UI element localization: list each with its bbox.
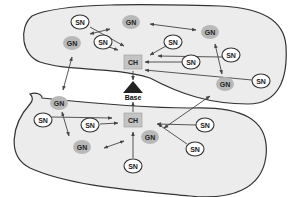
gn-node: GN bbox=[216, 77, 234, 91]
node-label: SN bbox=[190, 146, 200, 153]
node-label: GN bbox=[126, 19, 137, 26]
node-label: SN bbox=[38, 117, 48, 124]
base-station-icon bbox=[123, 81, 143, 93]
sn-node: SN bbox=[222, 48, 240, 62]
gn-node: GN bbox=[201, 25, 219, 39]
node-label: SN bbox=[186, 59, 196, 66]
gn-node: GN bbox=[63, 36, 81, 50]
node-label: SN bbox=[200, 122, 210, 129]
node-label: CH bbox=[128, 117, 138, 124]
sn-node: SN bbox=[196, 118, 214, 132]
node-label: SN bbox=[98, 39, 108, 46]
gn-node: GN bbox=[122, 15, 140, 29]
node-label: SN bbox=[128, 163, 138, 170]
node-label: GN bbox=[67, 40, 78, 47]
sn-node: SN bbox=[164, 35, 182, 49]
gn-node: GN bbox=[73, 140, 91, 154]
sn-node: SN bbox=[182, 55, 200, 69]
node-label: SN bbox=[168, 39, 178, 46]
ch-node: CH bbox=[124, 55, 142, 69]
wsn-cluster-diagram: Base SNGNGNSNGNSNSNCHSNGNSNGNSNSNCHSNGNG… bbox=[0, 0, 294, 197]
node-label: GN bbox=[145, 134, 156, 141]
node-label: SN bbox=[85, 122, 95, 129]
node-label: GN bbox=[77, 144, 88, 151]
base-station: Base bbox=[123, 81, 143, 101]
bottom-cluster-region bbox=[14, 93, 266, 197]
ch-node: CH bbox=[124, 113, 142, 127]
sn-node: SN bbox=[34, 113, 52, 127]
node-label: GN bbox=[205, 29, 216, 36]
gn-node: GN bbox=[50, 96, 68, 110]
sn-node: SN bbox=[71, 15, 89, 29]
node-label: GN bbox=[220, 81, 231, 88]
diagram-svg: Base SNGNGNSNGNSNSNCHSNGNSNGNSNSNCHSNGNG… bbox=[0, 0, 294, 197]
sn-node: SN bbox=[94, 35, 112, 49]
node-label: SN bbox=[226, 52, 236, 59]
gn-node: GN bbox=[141, 130, 159, 144]
sn-node: SN bbox=[81, 118, 99, 132]
sn-node: SN bbox=[252, 74, 270, 88]
node-label: SN bbox=[75, 19, 85, 26]
base-label: Base bbox=[125, 94, 142, 101]
sn-node: SN bbox=[124, 159, 142, 173]
node-label: SN bbox=[256, 78, 266, 85]
sn-node: SN bbox=[186, 142, 204, 156]
node-label: GN bbox=[54, 100, 65, 107]
node-label: CH bbox=[128, 59, 138, 66]
